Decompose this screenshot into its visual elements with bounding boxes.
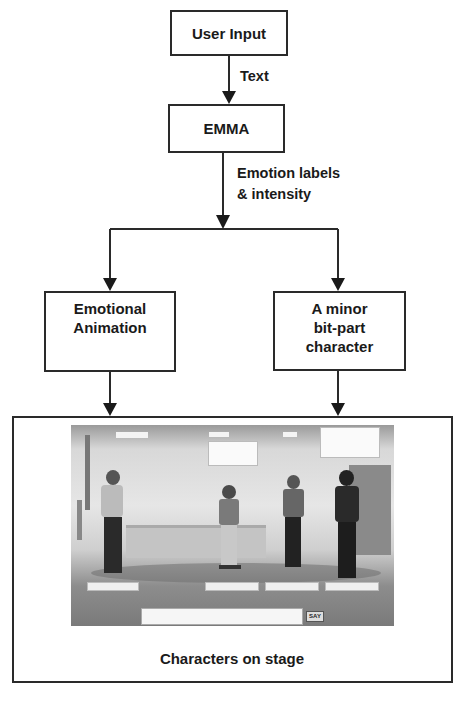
chat-input[interactable]: [141, 608, 303, 625]
edge-label-emotion-line2: & intensity: [237, 185, 340, 203]
node-emotional-animation-line1: Emotional: [73, 299, 146, 318]
node-emotional-animation-line2: Animation: [73, 318, 146, 337]
arrowhead-icon: [331, 278, 345, 291]
speech-bubble: [320, 427, 380, 458]
node-emma-label: EMMA: [204, 119, 250, 138]
character-name-tag: [265, 582, 319, 591]
arrowhead-icon: [216, 215, 230, 229]
edge-label-emotion: Emotion labels & intensity: [237, 164, 340, 203]
counter: [126, 525, 266, 558]
node-emotional-animation: Emotional Animation: [44, 291, 176, 372]
arrowhead-icon: [103, 278, 117, 291]
stage-screenshot: SAY: [71, 425, 394, 626]
ceiling-light: [283, 432, 297, 437]
arrowhead-icon: [103, 403, 117, 416]
node-user-input: User Input: [170, 10, 288, 56]
character-3: [283, 475, 304, 567]
arrowhead-icon: [222, 91, 236, 104]
character-name-tag: [205, 582, 259, 591]
character-name-tag: [87, 582, 139, 591]
ceiling-light: [209, 432, 229, 437]
character-4: [335, 470, 359, 578]
ceiling-light: [116, 432, 148, 438]
character-name-tag: [325, 582, 379, 591]
node-bit-part-line1: A minor: [306, 299, 374, 318]
character-1: [101, 470, 123, 573]
wall-beam: [85, 435, 90, 510]
edge-label-text: Text: [240, 67, 269, 85]
node-bit-part-character: A minor bit-part character: [273, 291, 406, 371]
say-button[interactable]: SAY: [306, 611, 324, 622]
node-emma: EMMA: [168, 104, 285, 153]
node-bit-part-line2: bit-part: [306, 318, 374, 337]
arrowhead-icon: [331, 403, 345, 416]
node-user-input-label: User Input: [192, 24, 266, 43]
stage-caption: Characters on stage: [12, 650, 452, 667]
node-bit-part-line3: character: [306, 337, 374, 356]
edge-label-emotion-line1: Emotion labels: [237, 164, 340, 182]
speech-bubble: [208, 441, 258, 466]
wall-beam: [77, 500, 82, 540]
character-2: [219, 485, 241, 569]
